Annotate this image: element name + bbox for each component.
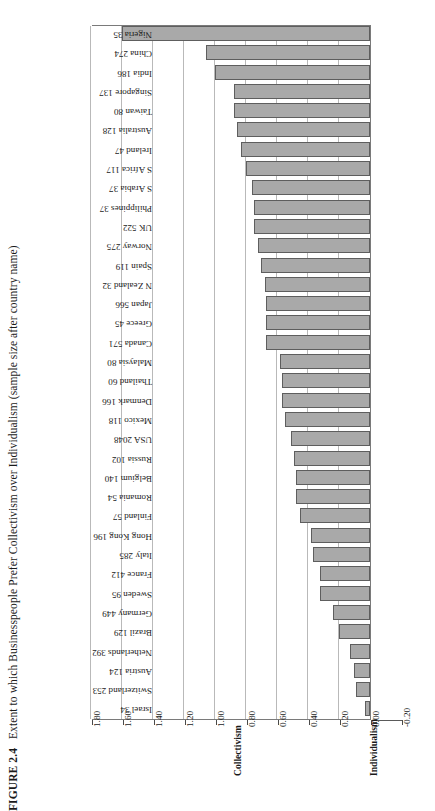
category-label: Israel 34	[120, 700, 152, 719]
category-label: Japan 566	[115, 295, 152, 314]
category-label: Malaysia 80	[107, 353, 152, 372]
category-label: S Arabia 37	[109, 179, 152, 198]
bar	[296, 470, 370, 485]
category-label: Brazil 129	[114, 623, 152, 642]
bar	[313, 547, 370, 562]
category-label: Australia 128	[103, 121, 152, 140]
figure-caption: FIGURE 2.4 Extent to which Businesspeopl…	[0, 0, 26, 811]
bar	[356, 682, 370, 697]
chart-rotated-canvas: Israel 34Switzerland 253Austria 124Nethe…	[31, 0, 435, 811]
bar	[266, 335, 370, 350]
category-label: Denmark 166	[102, 391, 152, 410]
bar	[320, 586, 370, 601]
category-label: Austria 124	[109, 662, 152, 681]
category-label: India 186	[117, 63, 152, 82]
bar	[282, 373, 370, 388]
bar	[262, 258, 371, 273]
bar-chart: Israel 34Switzerland 253Austria 124Nethe…	[31, 0, 435, 811]
category-label: Hong Kong 196	[93, 527, 152, 546]
bar	[252, 180, 370, 195]
bar	[266, 296, 370, 311]
bar	[296, 489, 370, 504]
bar	[206, 45, 370, 60]
bar	[320, 566, 370, 581]
bar	[266, 316, 370, 331]
bar	[254, 200, 370, 215]
category-label: Ireland 47	[115, 141, 152, 160]
bar	[237, 123, 370, 138]
bar	[355, 663, 371, 678]
category-label: China 274	[114, 44, 152, 63]
bar	[365, 702, 370, 717]
category-label: N Zealand 32	[103, 276, 153, 295]
bar	[241, 142, 370, 157]
bar	[122, 26, 370, 41]
bar	[215, 65, 370, 80]
category-label: Italy 285	[119, 546, 152, 565]
figure-number: FIGURE 2.4	[7, 748, 19, 811]
bar	[246, 161, 370, 176]
bar	[311, 528, 370, 543]
category-label: Finland 57	[113, 507, 152, 526]
bar	[234, 84, 370, 99]
bar	[254, 219, 370, 234]
category-label: Spain 119	[116, 256, 152, 275]
category-label: Switzerland 253	[93, 681, 152, 700]
category-label: Greece 45	[115, 314, 152, 333]
category-label: France 412	[111, 565, 152, 584]
category-label: S Africa 117	[106, 160, 152, 179]
category-label: Sweden 95	[112, 584, 152, 603]
bar	[265, 277, 370, 292]
category-label: Russia 102	[112, 449, 152, 468]
category-label: Romania 54	[108, 488, 152, 507]
category-label: Norway 275	[107, 237, 152, 256]
bar	[339, 624, 370, 639]
category-label: USA 2048	[114, 430, 152, 449]
bar	[234, 103, 370, 118]
category-label: Nigeria 35	[113, 25, 152, 44]
category-label: Germany 449	[102, 604, 152, 623]
bar	[285, 412, 370, 427]
category-label: Singapore 137	[99, 83, 152, 102]
figure-title: Extent to which Businesspeople Prefer Co…	[7, 245, 19, 739]
bar	[350, 644, 370, 659]
bar	[282, 393, 370, 408]
category-label: Taiwan 80	[114, 102, 152, 121]
bar	[258, 238, 370, 253]
bar	[280, 354, 370, 369]
bar	[333, 605, 370, 620]
bar	[300, 509, 370, 524]
category-label: Netherlands 392	[92, 642, 152, 661]
category-label: Canada 571	[109, 334, 152, 353]
category-label: Mexico 118	[109, 411, 152, 430]
bar	[294, 451, 370, 466]
category-label: Belgium 140	[105, 469, 152, 488]
category-label: Thailand 60	[108, 372, 152, 391]
bar	[291, 431, 370, 446]
category-label: Philippines 37	[100, 198, 152, 217]
category-label: UK 522	[123, 218, 152, 237]
